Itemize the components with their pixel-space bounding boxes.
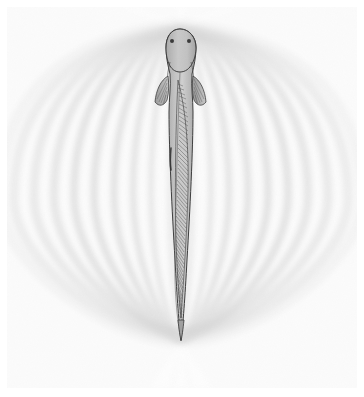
paper-grain-overlay	[0, 0, 364, 397]
electric-field-illustration	[0, 0, 364, 397]
figure-root: weakly electric knifefish with dipole el…	[0, 0, 364, 397]
